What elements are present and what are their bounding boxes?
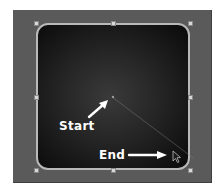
pointer-cursor-icon [173,151,181,163]
start-label: Start [59,119,95,133]
arrow-right-icon [129,151,167,159]
gradient-start-point[interactable] [112,96,114,98]
end-label: End [99,148,125,162]
annotation-arrows [0,0,217,192]
arrow-up-right-icon [89,100,108,117]
